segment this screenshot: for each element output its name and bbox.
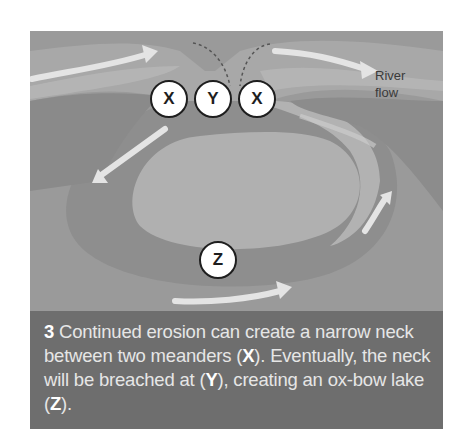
caption: 3 Continued erosion can create a narrow … [30,311,443,429]
river-flow-label-line2: flow [375,84,405,101]
caption-z: Z [50,393,61,414]
caption-y: Y [205,369,217,390]
caption-text-4: ). [61,393,72,414]
river-flow-label: River flow [375,67,405,101]
marker-x-right: X [238,80,276,118]
marker-z: Z [199,241,237,279]
marker-y: Y [194,80,232,118]
river-flow-label-line1: River [375,67,405,84]
caption-x: X [242,345,254,366]
marker-x-left: X [150,80,188,118]
caption-step-number: 3 [44,321,54,342]
ox-bow-lake-diagram: River flow X Y X Z 3 Continued erosion c… [30,31,443,429]
